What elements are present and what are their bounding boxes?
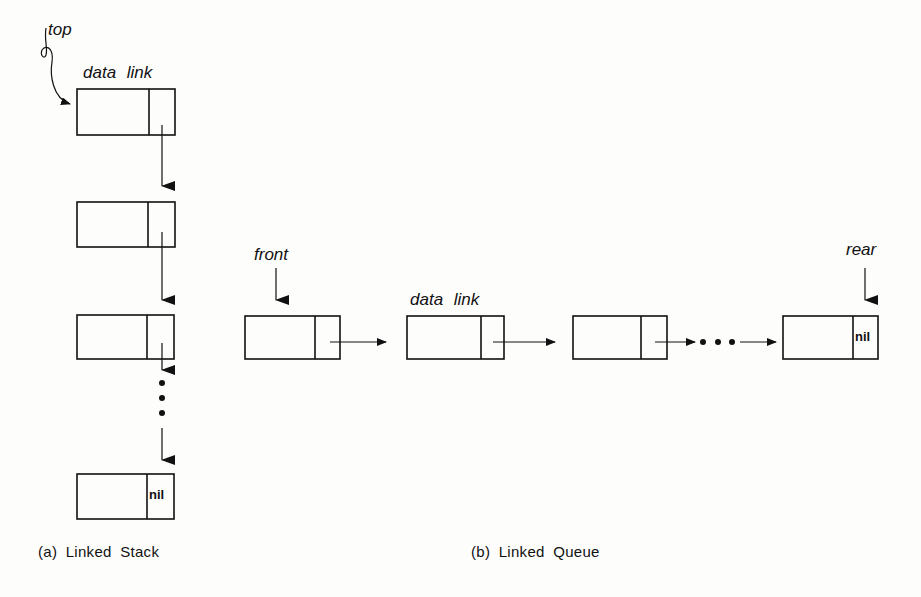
- queue-nil-value: nil: [855, 329, 870, 344]
- stack-nil-value: nil: [149, 487, 164, 502]
- rear-pointer-label: rear: [846, 240, 876, 260]
- linked-structures-diagram: top data link nil front data link rear n…: [0, 0, 921, 597]
- queue-node-3: [573, 316, 667, 359]
- stack-ellipsis-icon: [159, 380, 165, 416]
- top-pointer-label: top: [48, 20, 72, 40]
- queue-node-1: [245, 316, 340, 359]
- queue-caption: (b) Linked Queue: [471, 543, 600, 560]
- stack-field-labels: data link: [83, 63, 152, 83]
- front-pointer-label: front: [254, 245, 288, 265]
- stack-node-3: [77, 315, 174, 359]
- queue-ellipsis-icon: [700, 339, 735, 345]
- queue-field-labels: data link: [410, 290, 479, 310]
- stack-node-2: [77, 202, 175, 247]
- queue-node-2: [407, 316, 504, 359]
- stack-node-1: [77, 89, 175, 135]
- stack-caption: (a) Linked Stack: [38, 543, 159, 560]
